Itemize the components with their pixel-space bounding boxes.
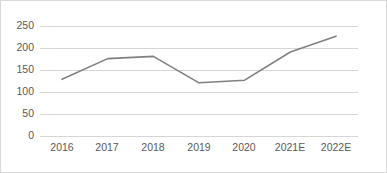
x-tick-label-2022E: 2022E bbox=[321, 141, 351, 153]
x-tick-label-2020: 2020 bbox=[232, 141, 256, 153]
x-tick-label-2018: 2018 bbox=[141, 141, 165, 153]
x-tick-label-2017: 2017 bbox=[95, 141, 119, 153]
y-axis-tick-labels: 250 200 150 100 50 0 bbox=[16, 19, 34, 141]
x-tick-label-2021E: 2021E bbox=[275, 141, 305, 153]
x-tick-label-2016: 2016 bbox=[50, 141, 74, 153]
y-tick-label-200: 200 bbox=[16, 41, 34, 53]
y-tick-label-100: 100 bbox=[16, 85, 34, 97]
y-tick-label-250: 250 bbox=[16, 19, 34, 31]
y-tick-label-150: 150 bbox=[16, 63, 34, 75]
line-chart-figure: 250 200 150 100 50 0 2016 2017 2018 2019… bbox=[0, 0, 387, 173]
x-axis-tick-labels: 2016 2017 2018 2019 2020 2021E 2022E bbox=[50, 141, 351, 153]
y-tick-label-50: 50 bbox=[22, 107, 34, 119]
data-series-line bbox=[62, 36, 336, 83]
x-tick-label-2019: 2019 bbox=[187, 141, 211, 153]
y-gridlines bbox=[40, 27, 358, 137]
y-tick-label-0: 0 bbox=[28, 129, 34, 141]
chart-plot-area: 250 200 150 100 50 0 2016 2017 2018 2019… bbox=[1, 1, 387, 173]
